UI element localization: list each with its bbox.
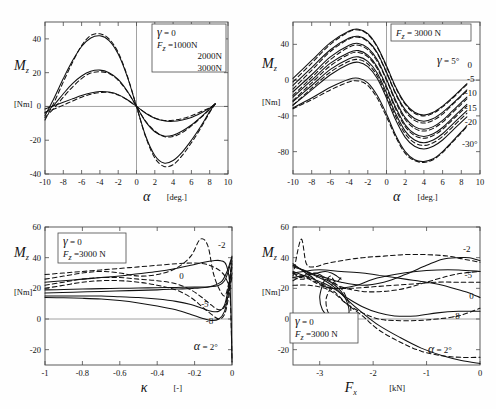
curve-label: 0 [469, 291, 474, 301]
data-curve [293, 257, 480, 285]
curve-label: -2 [463, 244, 471, 254]
curve-label: 0 [467, 60, 472, 70]
y-axis-unit: [Nm] [262, 287, 281, 297]
legend-line: γ = 0 [295, 314, 314, 328]
y-tick-label: -20 [30, 135, 41, 145]
x-tick-label: -0.8 [76, 368, 89, 378]
curve-label: -10 [465, 88, 477, 98]
y-axis-label: Mz [13, 245, 30, 262]
x-axis-unit: [deg.] [167, 192, 187, 202]
x-tick-label: -8 [308, 177, 315, 187]
y-tick-label: 0 [285, 314, 289, 324]
y-tick-label: -20 [30, 345, 41, 355]
data-curve [45, 72, 215, 137]
y-tick-label: 0 [285, 75, 289, 85]
y-axis-unit: [Nm] [14, 99, 33, 109]
x-tick-label: -1 [423, 368, 430, 378]
legend-line: 3000N [198, 63, 223, 73]
x-axis-unit: [-] [174, 383, 183, 393]
y-tick-label: 20 [281, 283, 290, 293]
curve-label: -8 [452, 311, 460, 321]
curve-label: α = 2° [194, 339, 218, 353]
x-tick-label: -4 [96, 177, 104, 187]
curve-label: 0 [179, 271, 184, 281]
y-tick-label: 40 [281, 39, 290, 49]
plot-frame [293, 227, 480, 365]
curve-label: -8 [206, 316, 214, 326]
x-tick-label: -6 [78, 177, 85, 187]
curve-label: γ = 5° [437, 53, 460, 67]
x-tick-label: -10 [287, 177, 298, 187]
x-axis-unit: [deg.] [418, 192, 438, 202]
y-tick-label: -40 [30, 169, 41, 179]
curve-label: -5 [464, 270, 472, 280]
x-tick-label: 0 [478, 368, 482, 378]
curve-label: -2 [218, 240, 226, 250]
curve-label: -15 [465, 103, 477, 113]
panel-bottom-right: -3-2-106040200-20Mz[Nm]Fx[kN]γ = 0Fz =30… [248, 205, 496, 409]
x-tick-label: -0.4 [150, 368, 164, 378]
curve-label: -5 [201, 299, 209, 309]
x-axis-label: Fx [344, 380, 358, 397]
x-tick-label: -1 [41, 368, 48, 378]
x-tick-label: 4 [171, 177, 176, 187]
data-curve [293, 62, 467, 149]
y-tick-label: 40 [281, 253, 290, 263]
x-tick-label: 6 [189, 177, 193, 187]
y-tick-label: 20 [33, 283, 42, 293]
y-axis-unit: [Nm] [14, 287, 33, 297]
y-tick-label: -40 [278, 111, 289, 121]
legend-line: γ = 0 [157, 25, 176, 39]
x-tick-label: -0.6 [113, 368, 126, 378]
data-curve [293, 78, 467, 162]
x-tick-label: -10 [39, 177, 50, 187]
x-tick-label: 6 [440, 177, 444, 187]
y-axis-label: Mz [261, 245, 278, 262]
curve-label: -20 [465, 117, 477, 127]
y-axis-unit: [Nm] [262, 97, 281, 107]
curve-label: -5 [467, 74, 475, 84]
y-tick-label: 0 [37, 314, 41, 324]
x-tick-label: 0 [230, 368, 234, 378]
x-tick-label: 10 [476, 177, 485, 187]
x-tick-label: 8 [208, 177, 212, 187]
y-tick-label: 0 [37, 101, 41, 111]
x-tick-label: 8 [459, 177, 463, 187]
y-tick-label: -20 [278, 345, 289, 355]
x-axis-label: α [393, 189, 401, 204]
legend-line: γ = 0 [63, 234, 82, 248]
x-tick-label: -0.2 [188, 368, 201, 378]
x-tick-label: 0 [384, 177, 388, 187]
panel-tl-plot: -10-8-6-4-2024681040200-20-40Mz[Nm]α[deg… [0, 0, 248, 204]
x-tick-label: 10 [224, 177, 233, 187]
y-tick-label: -80 [278, 147, 289, 157]
y-tick-label: 60 [33, 222, 42, 232]
x-tick-label: -2 [115, 177, 122, 187]
panel-tr-plot: -10-8-6-4-20246810400-40-80Mz[Nm]α[deg.]… [248, 0, 496, 204]
panel-top-left: -10-8-6-4-2024681040200-20-40Mz[Nm]α[deg… [0, 0, 248, 204]
x-tick-label: 2 [153, 177, 157, 187]
x-axis-label: κ [141, 380, 148, 395]
legend-line: 2000N [198, 51, 223, 61]
y-axis-label: Mz [261, 56, 278, 73]
x-tick-label: -6 [327, 177, 334, 187]
x-tick-label: -3 [316, 368, 323, 378]
y-tick-label: 20 [33, 68, 42, 78]
y-tick-label: 60 [281, 222, 290, 232]
x-tick-label: 0 [134, 177, 138, 187]
curve-label: α = 2° [428, 342, 452, 356]
data-curve [45, 70, 215, 136]
panel-bottom-left: -1-0.8-0.6-0.4-0.206040200-20Mz[Nm]κ[-]γ… [0, 205, 248, 409]
panel-br-plot: -3-2-106040200-20Mz[Nm]Fx[kN]γ = 0Fz =30… [248, 205, 496, 409]
panel-bl-plot: -1-0.8-0.6-0.4-0.206040200-20Mz[Nm]κ[-]γ… [0, 205, 248, 409]
x-tick-label: 2 [403, 177, 407, 187]
y-tick-label: 40 [33, 253, 42, 263]
x-tick-label: -8 [60, 177, 67, 187]
x-axis-label: α [143, 189, 151, 204]
x-tick-label: -4 [346, 177, 354, 187]
figure-container: -10-8-6-4-2024681040200-20-40Mz[Nm]α[deg… [0, 0, 496, 409]
x-axis-unit: [kN] [389, 383, 405, 393]
x-tick-label: 4 [422, 177, 427, 187]
x-tick-label: -2 [370, 368, 377, 378]
x-tick-label: -2 [364, 177, 371, 187]
